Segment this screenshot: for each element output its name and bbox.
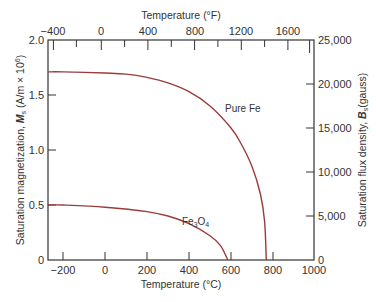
- svg-text:0: 0: [38, 254, 44, 266]
- svg-text:0: 0: [102, 264, 108, 276]
- y-axis-left-labels: 0 0.5 1.0 1.5 2.0: [29, 34, 44, 266]
- x-axis-bottom: [63, 252, 273, 260]
- svg-text:0: 0: [318, 254, 324, 266]
- magnetization-chart: −200 0 200 400 600 800 1000 Temperature …: [0, 0, 376, 302]
- y-axis-left: [48, 95, 56, 205]
- x-axis-bottom-labels: −200 0 200 400 600 800 1000: [51, 264, 327, 276]
- x-axis-title: Temperature (°C): [141, 278, 222, 290]
- svg-text:−200: −200: [51, 264, 76, 276]
- svg-text:0.5: 0.5: [29, 199, 44, 211]
- fe3o4-label: Fe3O4: [182, 216, 209, 228]
- y-axis-right-labels: 0 5,000 10,000 15,000 20,000 25,000: [318, 34, 352, 266]
- y-axis-title: Saturation magnetization, Ms (A/m × 106): [14, 55, 27, 245]
- svg-text:2.0: 2.0: [29, 34, 44, 46]
- svg-text:1.0: 1.0: [29, 144, 44, 156]
- svg-text:800: 800: [186, 25, 204, 37]
- svg-text:200: 200: [138, 264, 156, 276]
- pure-fe-label: Pure Fe: [225, 103, 261, 114]
- x2-axis-title: Temperature (°F): [141, 9, 220, 21]
- svg-text:1600: 1600: [276, 25, 300, 37]
- svg-text:20,000: 20,000: [318, 78, 352, 90]
- fe3o4-curve: [48, 205, 228, 260]
- svg-text:10,000: 10,000: [318, 166, 352, 178]
- x-axis-top: [53, 40, 309, 53]
- svg-text:600: 600: [222, 264, 240, 276]
- svg-text:15,000: 15,000: [318, 122, 352, 134]
- svg-text:1200: 1200: [229, 25, 253, 37]
- svg-text:400: 400: [180, 264, 198, 276]
- svg-text:0: 0: [98, 25, 104, 37]
- svg-text:800: 800: [264, 264, 282, 276]
- y2-axis-title: Saturation flux density, Bs(gauss): [356, 73, 369, 227]
- svg-text:400: 400: [139, 25, 157, 37]
- svg-text:1.5: 1.5: [29, 89, 44, 101]
- x-axis-top-labels: −400 0 400 800 1200 1600: [41, 25, 301, 37]
- svg-text:−400: −400: [41, 25, 66, 37]
- svg-text:5,000: 5,000: [318, 210, 346, 222]
- y-axis-right: [306, 84, 314, 216]
- pure-fe-curve: [48, 72, 267, 260]
- svg-text:25,000: 25,000: [318, 34, 352, 46]
